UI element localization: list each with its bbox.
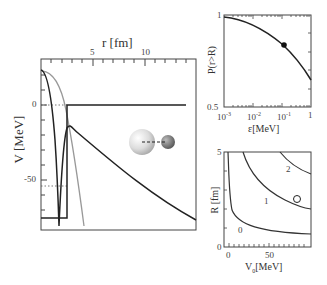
x-axis-label-v0: V0[MeV] (245, 262, 282, 274)
x-axis-label-r: r [fm] (102, 36, 133, 49)
region-label-1: 1 (264, 197, 269, 206)
density-curve-gray (42, 71, 84, 226)
y-tick-0: 0 (32, 100, 37, 109)
boundary-curve-1 (243, 152, 311, 209)
x-tick-10: 10 (141, 48, 150, 57)
top-axis-ticks (51, 59, 186, 66)
region-label-2: 2 (286, 165, 291, 174)
marker-filled-dot (281, 42, 287, 48)
x-tick-1e-3: 10-3 (217, 111, 231, 122)
figure-canvas (0, 0, 327, 285)
x-tick-50: 50 (265, 251, 274, 260)
x-axis-label-epsilon: ε[MeV] (248, 124, 279, 134)
potential-panel (41, 59, 196, 230)
y-tick-minus50: -50 (24, 175, 36, 184)
y-tick-0-bottom: 0 (217, 243, 222, 252)
marker-open-circle (294, 196, 301, 203)
left-axis-ticks (41, 75, 47, 210)
y-axis-label-v: V [MeV] (12, 110, 25, 170)
y-tick-1: 1 (217, 11, 222, 20)
x-tick-1e-1: 10-1 (277, 111, 291, 122)
y-axis-label-prob: P(r>R) (207, 30, 217, 90)
probability-curve (224, 17, 311, 80)
boundary-curve-2 (280, 152, 311, 174)
y-tick-5: 5 (217, 148, 222, 157)
x-tick-0: 0 (226, 251, 231, 260)
x-tick-1: 1 (308, 111, 313, 120)
x-tick-5: 5 (90, 48, 95, 57)
y-axis-label-r: R [fm] (210, 170, 220, 230)
boundary-curve-0 (228, 152, 311, 234)
x-tick-1e-2: 10-2 (247, 111, 261, 122)
region-label-0: 0 (238, 226, 243, 235)
probability-panel (224, 15, 311, 107)
wavefunction-curve (41, 70, 196, 226)
